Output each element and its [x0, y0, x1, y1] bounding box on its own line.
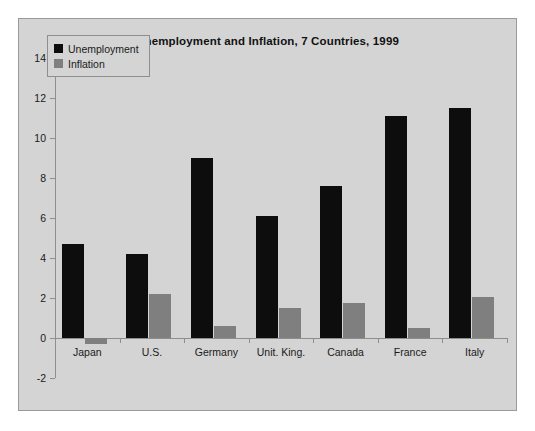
y-tick-mark	[50, 178, 55, 179]
x-axis-label: France	[394, 346, 427, 358]
x-tick-mark	[378, 338, 379, 343]
y-tick-label: 14	[34, 52, 46, 64]
legend-swatch-icon	[54, 44, 63, 53]
bar-inflation-germany	[214, 326, 236, 338]
zero-baseline	[55, 338, 507, 339]
y-tick-label: 12	[34, 92, 46, 104]
x-axis-label: Germany	[195, 346, 238, 358]
y-tick-label: 10	[34, 132, 46, 144]
legend-swatch-icon	[54, 59, 63, 68]
bar-unemployment-italy	[449, 108, 471, 338]
y-tick-label: -2	[37, 372, 46, 384]
bar-inflation-france	[408, 328, 430, 338]
x-tick-mark	[313, 338, 314, 343]
y-tick-label: 2	[40, 292, 46, 304]
legend-label: Inflation	[68, 58, 105, 70]
y-tick-mark	[50, 258, 55, 259]
y-tick-label: 4	[40, 252, 46, 264]
y-tick-mark	[50, 218, 55, 219]
x-axis-label: U.S.	[142, 346, 162, 358]
bar-inflation-u-s	[149, 294, 171, 338]
x-axis-label: Japan	[73, 346, 102, 358]
x-tick-mark	[184, 338, 185, 343]
bar-unemployment-unit-king	[256, 216, 278, 338]
y-tick-label: 0	[40, 332, 46, 344]
x-tick-mark	[120, 338, 121, 343]
y-tick-label: 6	[40, 212, 46, 224]
y-axis-line	[55, 58, 56, 378]
bar-inflation-japan	[85, 338, 107, 344]
bar-unemployment-u-s	[126, 254, 148, 338]
chart-legend: UnemploymentInflation	[47, 35, 150, 77]
x-tick-mark	[507, 338, 508, 343]
x-tick-mark	[55, 338, 56, 343]
y-tick-mark	[50, 98, 55, 99]
plot-area: 14121086420-2 JapanU.S.GermanyUnit. King…	[55, 58, 507, 378]
bar-unemployment-japan	[62, 244, 84, 338]
bar-inflation-italy	[472, 297, 494, 338]
x-tick-mark	[442, 338, 443, 343]
x-axis-label: Italy	[465, 346, 484, 358]
bar-unemployment-france	[385, 116, 407, 338]
legend-item: Unemployment	[54, 41, 139, 56]
legend-item: Inflation	[54, 56, 139, 71]
bar-unemployment-germany	[191, 158, 213, 338]
bar-unemployment-canada	[320, 186, 342, 338]
y-tick-mark	[50, 378, 55, 379]
x-axis-label: Canada	[327, 346, 364, 358]
bar-inflation-canada	[343, 303, 365, 338]
y-tick-mark	[50, 138, 55, 139]
y-tick-mark	[50, 298, 55, 299]
chart-figure: Unemployment and Inflation, 7 Countries,…	[18, 18, 517, 411]
y-tick-label: 8	[40, 172, 46, 184]
x-axis-label: Unit. King.	[257, 346, 305, 358]
bar-inflation-unit-king	[279, 308, 301, 338]
legend-label: Unemployment	[68, 43, 139, 55]
x-tick-mark	[249, 338, 250, 343]
